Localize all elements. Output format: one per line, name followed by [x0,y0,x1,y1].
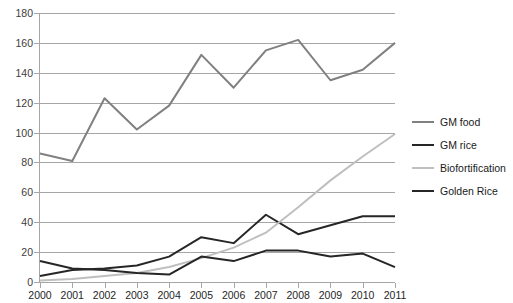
series-container [40,13,395,282]
x-axis-tick-mark [169,283,170,288]
y-axis-tick-label: 0 [3,277,33,287]
x-axis-tick-mark [40,283,41,288]
y-axis-tick-label: 160 [3,38,33,48]
chart-legend: GM foodGM riceBiofortificationGolden Ric… [412,110,513,202]
legend-item-biofortification[interactable]: Biofortification [412,156,513,179]
x-axis-tick-mark [137,283,138,288]
y-axis-tick-label: 20 [3,247,33,257]
x-axis-tick-mark [330,283,331,288]
y-axis-tick-label: 120 [3,98,33,108]
x-axis-tick-mark [234,283,235,288]
legend-line-swatch [412,144,434,146]
y-axis-tick-mark [34,252,40,253]
y-axis-tick-mark [34,162,40,163]
series-line-golden-rice [40,251,395,275]
legend-item-label: Biofortification [440,162,506,174]
legend-item-label: Golden Rice [440,185,498,197]
y-axis-tick-label: 40 [3,217,33,227]
legend-line-swatch [412,121,434,123]
y-axis-tick-mark [34,43,40,44]
y-axis-tick-labels: 020406080100120140160180 [0,0,33,303]
y-axis-tick-mark [34,192,40,193]
x-axis-tick-mark [363,283,364,288]
line-chart: 020406080100120140160180 200020012002200… [0,0,513,303]
x-axis-tick-mark [105,283,106,288]
y-axis-tick-label: 100 [3,128,33,138]
plot-area [40,13,395,282]
y-axis-tick-mark [34,13,40,14]
y-axis-tick-mark [34,73,40,74]
y-axis-tick-label: 80 [3,157,33,167]
legend-item-golden-rice[interactable]: Golden Rice [412,179,513,202]
y-axis-tick-mark [34,222,40,223]
legend-item-label: GM rice [440,139,477,151]
x-axis-tick-mark [72,283,73,288]
legend-item-gm-rice[interactable]: GM rice [412,133,513,156]
legend-item-label: GM food [440,116,480,128]
x-axis-tick-label: 2011 [375,289,415,301]
x-axis-tick-mark [266,283,267,288]
x-axis-tick-mark [298,283,299,288]
y-axis-tick-label: 140 [3,68,33,78]
gridline [40,282,395,283]
y-axis-tick-label: 60 [3,187,33,197]
x-axis-tick-mark [395,283,396,288]
y-axis-tick-mark [34,103,40,104]
legend-item-gm-food[interactable]: GM food [412,110,513,133]
y-axis-tick-mark [34,282,40,283]
series-line-gm-food [40,40,395,161]
y-axis-tick-label: 180 [3,8,33,18]
legend-line-swatch [412,167,434,169]
x-axis-tick-mark [201,283,202,288]
series-line-gm-rice [40,215,395,276]
legend-line-swatch [412,190,434,192]
y-axis-tick-mark [34,133,40,134]
